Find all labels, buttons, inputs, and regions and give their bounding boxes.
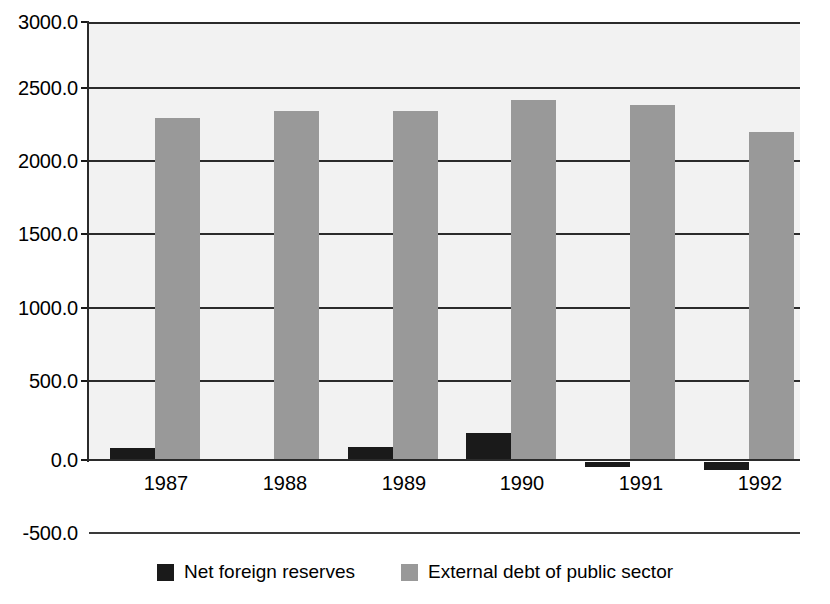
y-axis-line [87, 21, 89, 462]
y-axis-tick-label: 2000.0 [0, 151, 78, 171]
bar-external-debt-1988 [274, 111, 319, 460]
x-axis-label-1987: 1987 [110, 472, 222, 494]
bar-external-debt-1990 [511, 100, 556, 460]
y-axis-tick-label: 1000.0 [0, 298, 78, 318]
plot-area [89, 22, 800, 460]
bar-chart: 3000.0 2500.0 2000.0 1500.0 1000.0 500.0… [0, 0, 830, 604]
x-axis-label-1991: 1991 [585, 472, 697, 494]
gridline-3000 [89, 22, 800, 24]
legend-item-external-debt-of-public-sector: External debt of public sector [401, 562, 673, 582]
bar-net-foreign-reserves-1990 [466, 433, 511, 460]
bar-external-debt-1989 [393, 111, 438, 460]
bar-net-foreign-reserves-1991 [585, 462, 630, 467]
bar-external-debt-1987 [155, 118, 200, 460]
bar-external-debt-1992 [749, 132, 794, 460]
y-axis-tick-label: 1500.0 [0, 224, 78, 244]
zero-axis-line [89, 459, 800, 461]
y-axis-tick-label: 0.0 [0, 450, 78, 470]
baseline-minus-500 [89, 532, 800, 534]
x-axis-label-1989: 1989 [348, 472, 460, 494]
bar-net-foreign-reserves-1992 [704, 462, 749, 470]
y-axis-tick-label: 500.0 [0, 371, 78, 391]
legend-swatch-icon-dark [157, 564, 174, 581]
chart-legend: Net foreign reserves External debt of pu… [0, 562, 830, 582]
x-axis-label-1992: 1992 [704, 472, 816, 494]
x-axis-label-1990: 1990 [466, 472, 578, 494]
legend-item-net-foreign-reserves: Net foreign reserves [157, 562, 355, 582]
gridline-2500 [89, 87, 800, 89]
legend-label: Net foreign reserves [184, 562, 355, 582]
y-axis-tick-label: 2500.0 [0, 78, 78, 98]
bar-external-debt-1991 [630, 105, 675, 460]
legend-label: External debt of public sector [428, 562, 673, 582]
x-axis-label-1988: 1988 [229, 472, 341, 494]
y-axis-tick-label: -500.0 [0, 523, 78, 543]
legend-swatch-icon-gray [401, 564, 418, 581]
y-axis-tick-label: 3000.0 [0, 12, 78, 32]
